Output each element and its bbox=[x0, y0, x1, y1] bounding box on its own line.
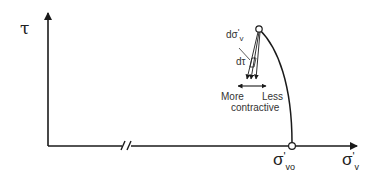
sigma-vo-sub: vo bbox=[286, 162, 296, 172]
dsigma-sub: v bbox=[239, 34, 243, 43]
more-label: More bbox=[221, 92, 244, 102]
dsigma-label: dσ'v bbox=[226, 30, 243, 40]
sigma-v-prime: ' bbox=[353, 150, 355, 162]
sigma-v-sub: v bbox=[355, 162, 360, 172]
sigma-v-main: σ bbox=[342, 150, 353, 169]
tau-symbol: τ bbox=[20, 18, 29, 38]
contractive-label: contractive bbox=[231, 103, 279, 113]
sigma-vo-main: σ bbox=[273, 150, 284, 169]
less-label: Less bbox=[262, 92, 283, 102]
dsigma-text: dσ bbox=[226, 29, 238, 40]
sigma-vo-prime: ' bbox=[284, 150, 286, 162]
dtau-label: dτ bbox=[236, 57, 246, 67]
diagram-canvas: τ dσ'v dτ More Less contractive σ'vo σ'v bbox=[0, 0, 381, 179]
y-axis-label: τ bbox=[20, 20, 29, 37]
initial-stress-point-marker bbox=[289, 143, 296, 150]
stress-path-diagram bbox=[0, 0, 381, 179]
dtau-text: dτ bbox=[236, 56, 246, 67]
peak-point-marker bbox=[256, 26, 262, 32]
sigma-vo-label: σ'vo bbox=[273, 151, 295, 168]
axis-break-icon bbox=[121, 141, 131, 150]
x-axis-label: σ'v bbox=[342, 151, 359, 168]
less-text: Less bbox=[262, 91, 283, 102]
more-text: More bbox=[221, 91, 244, 102]
contractive-text: contractive bbox=[231, 102, 279, 113]
